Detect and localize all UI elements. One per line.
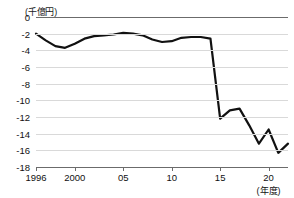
y-axis-tick-label: 0: [0, 12, 30, 23]
x-axis-tick-label: 1996: [25, 172, 46, 183]
gridline: [36, 117, 288, 118]
x-axis-tick-label: 2000: [64, 172, 85, 183]
y-axis-tick-label: -6: [0, 62, 30, 73]
gridline: [36, 84, 288, 85]
gridline: [36, 17, 288, 18]
y-axis-tick-label: -4: [0, 45, 30, 56]
line-chart: (千億円) 0-2-4-6-8-10-12-14-16-18 199620000…: [0, 0, 294, 198]
x-axis-tick: [220, 167, 221, 171]
x-axis-tick-label: 10: [166, 172, 177, 183]
y-axis-tick-label: -10: [0, 95, 30, 106]
x-axis-tick: [172, 167, 173, 171]
x-axis-tick-label: 05: [118, 172, 129, 183]
x-axis-tick: [269, 167, 270, 171]
x-axis-tick-label: 20: [263, 172, 274, 183]
y-axis-tick-label: -12: [0, 112, 30, 123]
plot-area: [36, 17, 288, 167]
gridline: [36, 50, 288, 51]
y-axis-tick-label: -2: [0, 28, 30, 39]
y-axis-tick-label: -8: [0, 78, 30, 89]
gridline: [36, 134, 288, 135]
series-line: [36, 17, 288, 167]
x-axis-tick: [36, 167, 37, 171]
gridline: [36, 100, 288, 101]
y-axis-tick-label: -16: [0, 145, 30, 156]
x-axis-title: (年度): [257, 184, 281, 197]
x-axis-tick-label: 15: [215, 172, 226, 183]
gridline: [36, 150, 288, 151]
y-axis-tick-label: -14: [0, 128, 30, 139]
y-axis-tick-label: -18: [0, 162, 30, 173]
gridline: [36, 67, 288, 68]
gridline: [36, 34, 288, 35]
x-axis-tick: [75, 167, 76, 171]
x-axis-tick: [123, 167, 124, 171]
